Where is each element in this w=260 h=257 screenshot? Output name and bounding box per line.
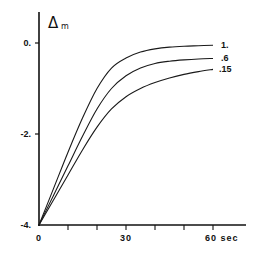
x-ticks: 03060 sec bbox=[36, 225, 239, 243]
y-tick-label: -2. bbox=[20, 129, 31, 139]
x-tick-label: 30 bbox=[120, 233, 132, 243]
y-tick-label: -4. bbox=[20, 220, 31, 230]
series-label: .15 bbox=[219, 64, 232, 74]
x-tick-label: 60 sec bbox=[205, 233, 239, 243]
series-group bbox=[39, 45, 213, 225]
y-tick-label: 0. bbox=[23, 38, 31, 48]
series-line-0 bbox=[39, 45, 213, 225]
line-chart: 0.-2.-4. 03060 sec Δ m 1..6.15 bbox=[0, 0, 260, 257]
x-tick-label: 0 bbox=[36, 233, 42, 243]
series-line-1 bbox=[39, 58, 213, 225]
series-label: .6 bbox=[221, 53, 229, 63]
y-axis-subscript: m bbox=[61, 22, 69, 31]
y-ticks: 0.-2.-4. bbox=[20, 38, 39, 230]
series-label: 1. bbox=[221, 40, 229, 50]
axes bbox=[38, 12, 246, 226]
series-labels: 1..6.15 bbox=[219, 40, 232, 74]
y-axis-label: Δ m bbox=[48, 14, 69, 32]
series-line-2 bbox=[39, 69, 213, 225]
y-axis-symbol: Δ bbox=[48, 14, 59, 32]
